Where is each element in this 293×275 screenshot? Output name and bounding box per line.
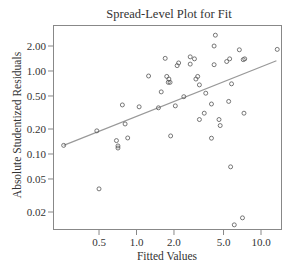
y-tick: 0.20 <box>27 123 53 135</box>
data-point <box>218 124 222 128</box>
svg-text:0.5: 0.5 <box>92 236 106 248</box>
data-point <box>123 122 127 126</box>
data-point <box>97 187 101 191</box>
y-tick: 1.00 <box>27 65 53 77</box>
x-tick: 5.0 <box>217 230 231 248</box>
data-point <box>217 118 221 122</box>
svg-text:1.00: 1.00 <box>27 65 47 77</box>
data-point <box>230 82 234 86</box>
y-axis-ticks: 0.020.050.100.200.501.002.00 <box>27 40 53 218</box>
svg-text:0.10: 0.10 <box>27 148 47 160</box>
data-point <box>197 118 201 122</box>
svg-text:2.00: 2.00 <box>27 40 47 52</box>
data-point <box>169 134 173 138</box>
plot-frame <box>54 26 282 230</box>
svg-text:0.20: 0.20 <box>27 123 47 135</box>
data-point <box>188 55 192 59</box>
svg-text:2.0: 2.0 <box>167 236 181 248</box>
data-point <box>147 74 151 78</box>
data-point <box>120 103 124 107</box>
data-point <box>165 74 169 78</box>
data-point <box>204 91 208 95</box>
x-tick: 10.0 <box>251 230 271 248</box>
x-tick: 2.0 <box>167 230 181 248</box>
data-point <box>227 99 231 103</box>
data-point <box>212 63 216 67</box>
svg-text:1.0: 1.0 <box>130 236 144 248</box>
data-point <box>173 104 177 108</box>
data-point <box>229 165 233 169</box>
data-point <box>242 111 246 115</box>
data-point <box>213 33 217 37</box>
data-point <box>114 139 118 143</box>
svg-text:0.02: 0.02 <box>27 206 46 218</box>
y-tick: 0.05 <box>27 173 53 185</box>
data-point <box>209 136 213 140</box>
scatter-plot: 0.51.02.05.010.0 0.020.050.100.200.501.0… <box>0 0 293 275</box>
y-tick: 0.10 <box>27 148 53 160</box>
data-point <box>212 44 216 48</box>
data-point <box>126 136 130 140</box>
data-point <box>202 111 206 115</box>
data-point <box>197 83 201 87</box>
data-point <box>159 90 163 94</box>
x-tick: 1.0 <box>130 230 144 248</box>
data-point <box>275 47 279 51</box>
data-point <box>163 56 167 60</box>
data-point <box>192 57 196 61</box>
y-tick: 0.02 <box>27 206 53 218</box>
data-point <box>209 102 213 106</box>
data-point <box>232 223 236 227</box>
data-point <box>240 216 244 220</box>
data-point <box>137 105 141 109</box>
svg-text:10.0: 10.0 <box>251 236 271 248</box>
svg-text:0.05: 0.05 <box>27 173 47 185</box>
svg-text:5.0: 5.0 <box>217 236 231 248</box>
y-tick: 2.00 <box>27 40 53 52</box>
data-point <box>228 57 232 61</box>
x-tick: 0.5 <box>92 230 106 248</box>
svg-text:0.50: 0.50 <box>27 90 47 102</box>
data-point <box>237 48 241 52</box>
data-point <box>188 62 192 66</box>
x-axis-ticks: 0.51.02.05.010.0 <box>92 230 271 248</box>
data-points <box>62 33 280 227</box>
y-tick: 0.50 <box>27 90 53 102</box>
